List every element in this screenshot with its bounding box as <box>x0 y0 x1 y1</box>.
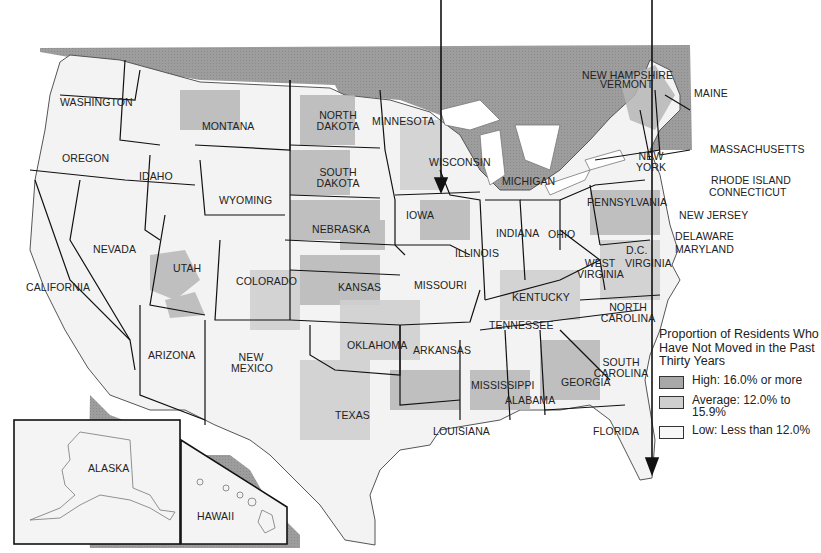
label-oregon: OREGON <box>62 153 109 164</box>
label-oklahoma: OKLAHOMA <box>347 340 407 351</box>
legend-label-high: High: 16.0% or more <box>692 374 802 387</box>
label-tennessee: TENNESSEE <box>489 320 554 331</box>
label-connecticut: CONNECTICUT <box>709 187 787 198</box>
label-minnesota: MINNESOTA <box>372 116 435 127</box>
label-iowa: IOWA <box>406 210 434 221</box>
label-north-dakota: NORTH DAKOTA <box>313 110 363 132</box>
legend-item-low: Low: Less than 12.0% <box>659 424 821 439</box>
label-kansas: KANSAS <box>338 282 381 293</box>
label-colorado: COLORADO <box>236 276 297 287</box>
label-louisiana: LOUISIANA <box>433 426 490 437</box>
label-wyoming: WYOMING <box>219 195 272 206</box>
label-new-jersey: NEW JERSEY <box>679 210 748 221</box>
legend-title: Proportion of Residents Who Have Not Mov… <box>659 328 821 369</box>
label-arizona: ARIZONA <box>148 350 195 361</box>
legend-item-high: High: 16.0% or more <box>659 374 821 389</box>
label-washington: WASHINGTON <box>60 97 133 108</box>
label-arkansas: ARKANSAS <box>413 345 471 356</box>
label-kentucky: KENTUCKY <box>512 292 570 303</box>
label-idaho: IDAHO <box>139 171 173 182</box>
label-maryland: MARYLAND <box>675 244 734 255</box>
label-south-dakota: SOUTH DAKOTA <box>313 167 363 189</box>
label-north-carolina: NORTH CAROLINA <box>600 302 656 324</box>
label-virginia: VIRGINIA <box>625 258 672 269</box>
label-ohio: OHIO <box>548 229 575 240</box>
label-new-mexico: NEW MEXICO <box>231 352 271 374</box>
label-massachusetts: MASSACHUSETTS <box>710 144 805 155</box>
label-maine: MAINE <box>694 88 728 99</box>
label-alabama: ALABAMA <box>505 395 555 406</box>
label-wisconsin: WISCONSIN <box>429 157 491 168</box>
legend-item-average: Average: 12.0% to 15.9% <box>659 394 821 419</box>
label-michigan: MICHIGAN <box>502 176 555 187</box>
label-hawaii: HAWAII <box>197 511 234 522</box>
label-illinois: ILLINOIS <box>455 248 499 259</box>
map-legend: Proportion of Residents Who Have Not Mov… <box>659 328 821 439</box>
label-missouri: MISSOURI <box>414 280 467 291</box>
alaska-inset <box>14 420 180 544</box>
legend-label-low: Low: Less than 12.0% <box>692 424 810 437</box>
legend-swatch-low <box>659 426 684 439</box>
label-florida: FLORIDA <box>593 426 639 437</box>
legend-swatch-high <box>659 376 684 389</box>
label-delaware: DELAWARE <box>675 231 734 242</box>
label-south-carolina: SOUTH CAROLINA <box>593 357 649 379</box>
label-dc: D.C. <box>626 245 647 256</box>
label-mississippi: MISSISSIPPI <box>471 380 535 391</box>
legend-swatch-average <box>659 396 684 409</box>
label-pennsylvania: PENNSYLVANIA <box>587 197 667 208</box>
legend-label-average: Average: 12.0% to 15.9% <box>692 394 821 419</box>
label-rhode-island: RHODE ISLAND <box>711 175 791 186</box>
label-california: CALIFORNIA <box>26 282 90 293</box>
label-indiana: INDIANA <box>496 228 539 239</box>
label-nebraska: NEBRASKA <box>312 224 370 235</box>
label-new-york: NEW YORK <box>636 151 666 173</box>
label-alaska: ALASKA <box>88 463 129 474</box>
label-montana: MONTANA <box>202 121 254 132</box>
label-nevada: NEVADA <box>93 244 136 255</box>
label-new-hampshire: NEW HAMPSHIRE <box>582 70 673 81</box>
label-west-virginia: WEST VIRGINIA <box>577 258 623 280</box>
label-utah: UTAH <box>173 263 201 274</box>
label-texas: TEXAS <box>335 410 370 421</box>
